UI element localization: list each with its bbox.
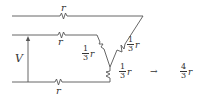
bottom-wire xyxy=(12,79,110,85)
top-resistor-label: r xyxy=(61,3,66,13)
bottom-resistor-label: r xyxy=(56,86,61,96)
vertical-lower-resistor-label: 13 r xyxy=(119,63,131,80)
top-wire xyxy=(12,13,143,19)
diag-right-resistor-label: 13 r xyxy=(127,36,139,53)
middle-resistor-label: r xyxy=(58,37,63,47)
result-label: 43 r xyxy=(180,63,192,80)
source-arrow-icon xyxy=(26,36,30,41)
diag-left-resistor-label: 13 r xyxy=(82,45,94,62)
circuit-diagram xyxy=(0,0,202,99)
arrow-icon: → xyxy=(150,67,158,76)
voltage-label: V xyxy=(15,53,23,64)
middle-wire xyxy=(12,32,97,38)
diag-left-wire xyxy=(97,35,110,67)
vertical-lower-wire xyxy=(106,67,110,82)
